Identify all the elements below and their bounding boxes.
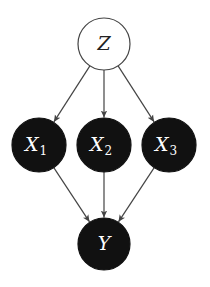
node-x1: X1 xyxy=(12,118,66,172)
node-label-z: Z xyxy=(96,32,111,54)
node-y: Y xyxy=(78,218,130,270)
edge-z-to-x3 xyxy=(118,66,154,122)
node-x3: X3 xyxy=(142,118,196,172)
node-z: Z xyxy=(78,18,130,70)
node-x2: X2 xyxy=(77,118,131,172)
edge-x3-to-y xyxy=(119,168,155,222)
graphical-model-diagram: ZX1X2X3Y xyxy=(0,0,210,287)
nodes: ZX1X2X3Y xyxy=(12,18,196,270)
edge-z-to-x1 xyxy=(54,66,90,122)
edge-x1-to-y xyxy=(54,168,90,222)
